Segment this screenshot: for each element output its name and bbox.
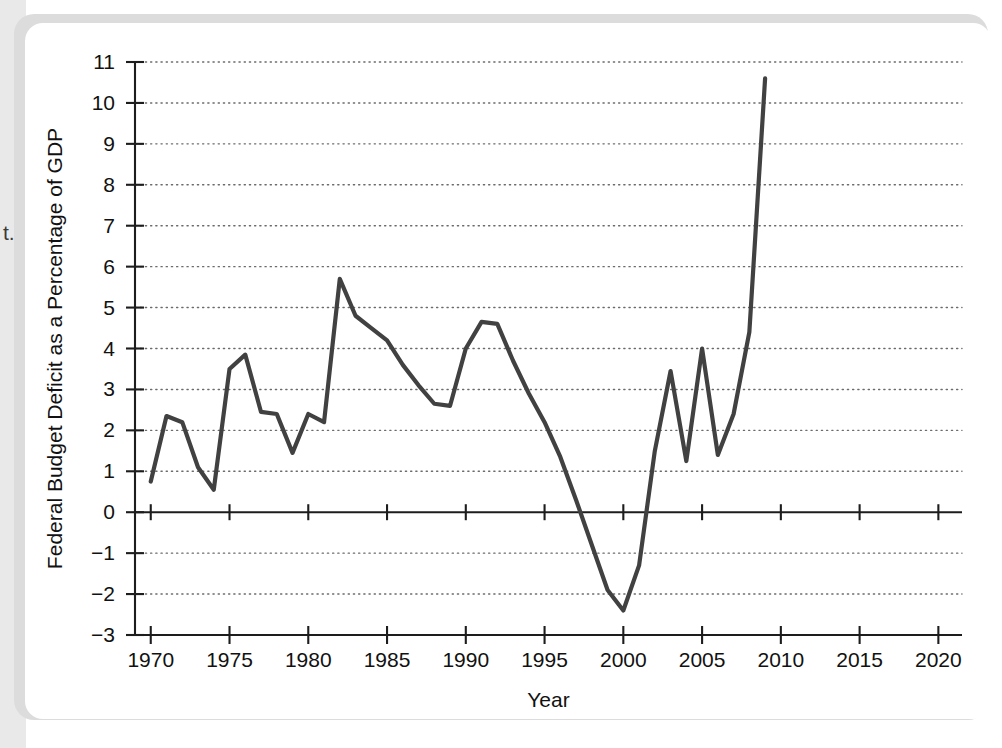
figure-card [25,23,991,719]
margin-text-fragment: t. [3,222,15,243]
